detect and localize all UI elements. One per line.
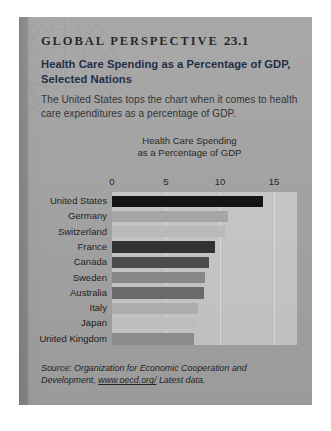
- intro-paragraph: The United States tops the chart when it…: [41, 93, 303, 121]
- bar-sweden: [112, 272, 205, 283]
- bar-row: [112, 316, 297, 331]
- global-perspective-box: GLOBAL PERSPECTIVE 23.1 Health Care Spen…: [19, 17, 312, 405]
- category-label-germany: Germany: [68, 209, 107, 222]
- category-label-italy: Italy: [90, 301, 107, 314]
- source-url-link[interactable]: www.oecd.org/: [98, 375, 156, 385]
- category-label-canada: Canada: [74, 255, 107, 268]
- bar-australia: [112, 287, 204, 298]
- kicker-label: GLOBAL PERSPECTIVE: [41, 34, 219, 48]
- bar-united-states: [112, 196, 263, 207]
- bar-row: [112, 255, 297, 270]
- bar-row: [112, 270, 297, 285]
- kicker-heading: GLOBAL PERSPECTIVE 23.1: [41, 33, 249, 49]
- chart-title: Health Care Spending as a Percentage of …: [107, 135, 272, 159]
- tick-label-10: 10: [215, 176, 226, 187]
- chart-title-line-2: as a Percentage of GDP: [107, 147, 272, 159]
- tick-label-15: 15: [269, 176, 280, 187]
- category-axis-labels: United StatesGermanySwitzerlandFranceCan…: [19, 192, 107, 345]
- bar-chart: Health Care Spending as a Percentage of …: [19, 135, 312, 350]
- source-label: Source:: [41, 363, 72, 373]
- bar-germany: [112, 211, 228, 222]
- source-note-text: Latest data.: [159, 375, 205, 385]
- bar-france: [112, 241, 215, 252]
- category-label-australia: Australia: [70, 286, 107, 299]
- kicker-number: 23.1: [224, 33, 249, 48]
- bar-row: [112, 285, 297, 300]
- bar-row: [112, 239, 297, 254]
- bar-row: [112, 301, 297, 316]
- plot-area: 051015: [112, 192, 297, 345]
- bar-united-kingdom: [112, 333, 194, 344]
- page-canvas: GLOBAL PERSPECTIVE 23.1 Health Care Spen…: [0, 0, 331, 431]
- tick-label-5: 5: [163, 176, 168, 187]
- bar-italy: [112, 303, 198, 314]
- bar-switzerland: [112, 226, 225, 237]
- category-label-switzerland: Switzerland: [58, 225, 107, 238]
- bar-row: [112, 194, 297, 209]
- bar-row: [112, 224, 297, 239]
- bar-japan: [112, 318, 196, 329]
- category-label-france: France: [77, 240, 107, 253]
- page-title: Health Care Spending as a Percentage of …: [41, 57, 299, 86]
- tick-label-0: 0: [109, 176, 114, 187]
- bar-canada: [112, 257, 209, 268]
- bar-row: [112, 331, 297, 346]
- category-label-united-kingdom: United Kingdom: [39, 332, 107, 345]
- source-note: Source: Organization for Economic Cooper…: [41, 362, 303, 387]
- category-label-sweden: Sweden: [73, 271, 107, 284]
- category-label-united-states: United States: [50, 194, 107, 207]
- chart-title-line-1: Health Care Spending: [107, 135, 272, 147]
- category-label-japan: Japan: [81, 316, 107, 329]
- bar-row: [112, 209, 297, 224]
